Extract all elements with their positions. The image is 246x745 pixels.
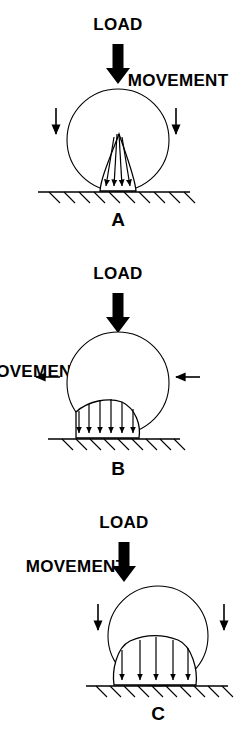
panel-b-letter: B bbox=[111, 458, 125, 479]
svg-text:B: B bbox=[111, 458, 125, 479]
svg-text:LOAD: LOAD bbox=[93, 15, 142, 34]
panel-b: LOAD MOVEMENT bbox=[0, 249, 246, 497]
panel-a-wall-hatching bbox=[49, 192, 195, 203]
panel-c-letter: C bbox=[151, 703, 165, 724]
panel-c-wall-hatching bbox=[96, 686, 233, 697]
panel-a-letter: A bbox=[111, 209, 125, 230]
svg-text:MOVEMENT: MOVEMENT bbox=[128, 71, 229, 90]
panel-a-load-label: LOAD bbox=[93, 15, 142, 34]
panel-c-load-label: LOAD bbox=[99, 513, 148, 532]
panel-b-wall-hatching bbox=[62, 439, 185, 450]
panel-c-movement-label: MOVEMENT bbox=[26, 557, 127, 576]
panel-b-load-arrow bbox=[106, 293, 130, 333]
svg-text:LOAD: LOAD bbox=[93, 264, 142, 283]
svg-text:C: C bbox=[151, 703, 165, 724]
svg-text:MOVEMENT: MOVEMENT bbox=[26, 557, 127, 576]
panel-a-load-arrow bbox=[106, 44, 130, 84]
svg-text:A: A bbox=[111, 209, 125, 230]
panel-b-load-label: LOAD bbox=[93, 264, 142, 283]
panel-a-movement-label: MOVEMENT bbox=[128, 71, 229, 90]
figure-canvas: LOAD MOVEMENT bbox=[0, 0, 246, 745]
svg-text:LOAD: LOAD bbox=[99, 513, 148, 532]
panel-c: LOAD MOVEMENT bbox=[0, 498, 246, 745]
panel-a: LOAD MOVEMENT bbox=[0, 0, 246, 248]
